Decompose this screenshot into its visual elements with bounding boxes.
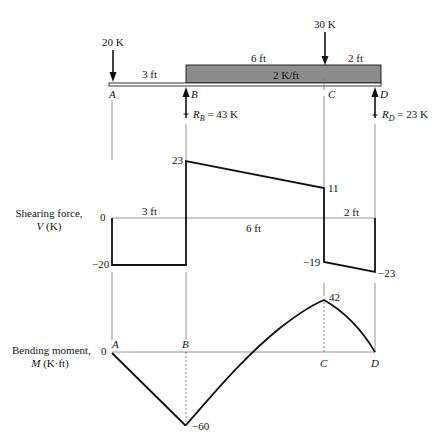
- moment-point-c-label: C: [320, 357, 327, 369]
- reaction-d-arrow: [372, 87, 379, 118]
- reaction-d-symbol: R: [382, 108, 389, 120]
- moment-title-line1: Bending moment,: [12, 344, 88, 357]
- shear-value-c-plus: −19: [303, 256, 320, 268]
- beam-point-d-label: D: [380, 88, 388, 100]
- reaction-b-arrow: [183, 87, 190, 118]
- shear-span-ab-label: 3 ft: [142, 205, 157, 217]
- shear-value-b: 23: [172, 154, 183, 166]
- span-bc-label: 6 ft: [251, 52, 266, 64]
- shear-axis-title: Shearing force, V (K): [14, 207, 84, 233]
- reaction-d-label: RD = 23 K: [382, 108, 428, 125]
- moment-point-b-label: B: [182, 338, 189, 350]
- moment-title-unit: (K·ft): [40, 357, 68, 369]
- shear-zero-label: 0: [100, 211, 106, 223]
- moment-point-a-label: A: [112, 338, 119, 350]
- shear-title-unit: (K): [43, 220, 61, 232]
- beam-point-a-label: A: [109, 88, 116, 100]
- moment-curve: [112, 300, 375, 425]
- shear-value-c-minus: 11: [328, 182, 339, 194]
- shear-span-cd-label: 2 ft: [344, 206, 359, 218]
- shear-value-a: −20: [92, 258, 109, 270]
- shear-title-line1: Shearing force,: [14, 207, 84, 220]
- moment-value-b: −60: [192, 420, 209, 432]
- moment-diagram: [112, 300, 375, 425]
- reaction-b-label: RB = 43 K: [193, 108, 238, 125]
- beam-point-c-label: C: [328, 88, 335, 100]
- distributed-load-label: 2 K/ft: [273, 69, 299, 81]
- reaction-d-value: = 23 K: [395, 108, 428, 120]
- shear-span-bc-label: 6 ft: [246, 222, 261, 234]
- point-load-a-arrow: [110, 50, 117, 82]
- span-cd-label: 2 ft: [348, 52, 363, 64]
- moment-axis-title: Bending moment, M (K·ft): [12, 344, 88, 370]
- moment-value-c: 42: [329, 291, 340, 303]
- moment-title-line2: M (K·ft): [12, 357, 88, 370]
- span-ab-label: 3 ft: [142, 68, 157, 80]
- moment-point-d-label: D: [371, 357, 379, 369]
- point-load-a-label: 20 K: [102, 36, 124, 48]
- beam-bar: [109, 83, 381, 86]
- reaction-b-value: = 43 K: [205, 108, 238, 120]
- point-load-c-label: 30 K: [314, 18, 336, 30]
- reaction-b-symbol: R: [193, 108, 200, 120]
- shear-title-line2: V (K): [14, 220, 84, 233]
- moment-title-var: M: [31, 357, 40, 369]
- shear-value-d: −23: [378, 267, 395, 279]
- moment-zero-label: 0: [101, 345, 107, 357]
- point-load-c-arrow: [322, 32, 329, 65]
- beam-point-b-label: B: [191, 88, 198, 100]
